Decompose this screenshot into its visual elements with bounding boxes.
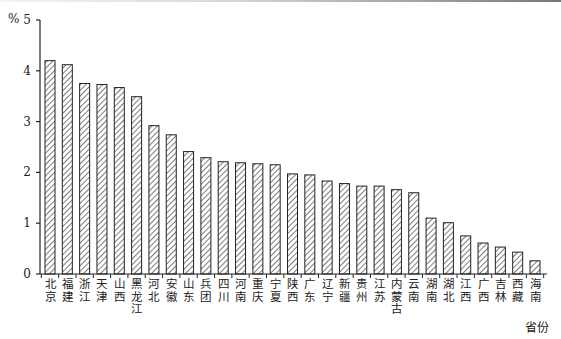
x-tick-label: 辽宁 <box>322 277 334 304</box>
bar <box>461 236 471 274</box>
svg-text:南: 南 <box>530 290 541 304</box>
x-tick-label: 福建 <box>62 277 74 304</box>
svg-text:北: 北 <box>443 290 455 304</box>
bar <box>478 243 488 274</box>
bars-group <box>45 61 540 274</box>
svg-text:西: 西 <box>287 290 298 304</box>
svg-text:津: 津 <box>96 290 107 304</box>
bar <box>322 181 332 274</box>
svg-text:西: 西 <box>460 290 471 304</box>
x-tick-label: 广西 <box>478 277 489 304</box>
svg-text:北: 北 <box>148 290 160 304</box>
bar <box>339 184 349 274</box>
svg-text:疆: 疆 <box>339 290 351 304</box>
bar <box>201 158 211 274</box>
svg-text:川: 川 <box>218 290 229 304</box>
x-tick-label: 浙江 <box>79 277 91 304</box>
bar <box>166 135 176 274</box>
x-tick-label: 贵州 <box>356 277 367 304</box>
svg-text:京: 京 <box>45 290 56 304</box>
x-axis-title: 省份 <box>525 318 549 335</box>
svg-text:西: 西 <box>114 290 125 304</box>
svg-text:西: 西 <box>478 290 489 304</box>
y-axis-unit-label: % <box>8 12 19 26</box>
svg-text:苏: 苏 <box>374 290 385 304</box>
x-tick-label: 天津 <box>96 277 108 304</box>
x-tick-label: 湖南 <box>426 277 437 304</box>
svg-text:南: 南 <box>426 290 437 304</box>
svg-text:南: 南 <box>235 290 246 304</box>
x-tick-label: 黑龙江 <box>131 277 143 316</box>
x-tick-label: 重庆 <box>252 277 264 304</box>
x-tick-label: 山东 <box>183 277 194 304</box>
bar <box>253 164 263 274</box>
bar <box>45 61 55 274</box>
x-tick-label: 江西 <box>460 277 472 304</box>
bar <box>495 247 505 274</box>
x-axis: 北京福建浙江天津山西黑龙江河北安徽山东兵团四川河南重庆宁夏陕西广东辽宁新疆贵州江… <box>40 274 547 316</box>
y-tick-label: 3 <box>23 115 31 129</box>
bar <box>357 186 367 274</box>
svg-text:州: 州 <box>356 290 367 304</box>
svg-text:古: 古 <box>391 302 402 316</box>
bar <box>80 84 90 275</box>
y-tick-label: 1 <box>23 216 31 230</box>
svg-text:南: 南 <box>408 290 419 304</box>
x-tick-label: 安徽 <box>166 277 178 304</box>
svg-text:庆: 庆 <box>252 290 264 304</box>
x-tick-label: 四川 <box>218 277 229 304</box>
svg-text:藏: 藏 <box>512 290 524 304</box>
bar <box>443 223 453 274</box>
bar <box>149 126 159 274</box>
bar <box>513 252 523 274</box>
bar <box>391 190 401 274</box>
bar <box>132 97 142 274</box>
bar-chart: 012345 北京福建浙江天津山西黑龙江河北安徽山东兵团四川河南重庆宁夏陕西广东… <box>0 0 561 339</box>
x-tick-label: 江苏 <box>374 277 386 304</box>
svg-text:东: 东 <box>304 290 315 304</box>
svg-text:夏: 夏 <box>270 290 282 304</box>
x-tick-label: 宁夏 <box>270 277 282 304</box>
x-tick-label: 湖北 <box>443 277 455 304</box>
bar <box>288 174 298 274</box>
x-tick-label: 吉林 <box>495 277 507 304</box>
x-tick-label: 山西 <box>114 277 125 304</box>
y-axis: 012345 <box>23 13 40 281</box>
svg-text:江: 江 <box>79 290 91 304</box>
x-tick-label: 广东 <box>304 277 315 304</box>
bar <box>530 261 540 274</box>
x-tick-label: 北京 <box>45 277 57 304</box>
bar <box>426 218 436 274</box>
bar <box>184 152 194 274</box>
bar <box>270 165 280 274</box>
y-tick-label: 4 <box>23 64 31 78</box>
x-tick-label: 陕西 <box>287 277 299 304</box>
svg-text:宁: 宁 <box>322 290 333 304</box>
bar <box>97 85 107 274</box>
x-tick-label: 兵团 <box>200 277 211 304</box>
svg-text:徽: 徽 <box>166 290 178 304</box>
x-tick-label: 西藏 <box>512 277 524 304</box>
x-tick-label: 新疆 <box>339 277 351 304</box>
bar <box>114 88 124 274</box>
bar <box>305 175 315 274</box>
bar <box>409 193 419 274</box>
svg-text:东: 东 <box>183 290 194 304</box>
y-tick-label: 5 <box>23 13 31 27</box>
bar <box>62 65 72 274</box>
svg-text:江: 江 <box>131 302 143 316</box>
svg-text:林: 林 <box>495 290 507 304</box>
y-tick-label: 2 <box>23 165 31 179</box>
svg-text:团: 团 <box>200 290 211 304</box>
x-tick-label: 云南 <box>408 277 419 304</box>
bar <box>374 186 384 274</box>
x-tick-label: 河北 <box>148 277 160 304</box>
x-tick-label: 内蒙古 <box>391 277 402 316</box>
y-tick-label: 0 <box>23 267 31 281</box>
x-tick-label: 海南 <box>530 277 542 304</box>
x-tick-label: 河南 <box>235 277 247 304</box>
bar <box>218 162 228 274</box>
bar <box>236 163 246 274</box>
svg-text:建: 建 <box>62 290 74 304</box>
